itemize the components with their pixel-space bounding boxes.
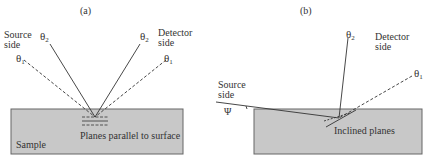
detector-side-label-b: Detector side — [375, 32, 409, 52]
theta2-left-a: θ2 — [40, 31, 49, 45]
inclined-planes-label: Inclined planes — [334, 126, 395, 136]
theta2-b: θ2 — [346, 29, 355, 43]
source-side-label-a: Source side — [4, 30, 32, 50]
panel-a-label: (a) — [80, 6, 91, 16]
theta1-b: θ1 — [414, 68, 423, 82]
source-side-label-b: Source side — [218, 80, 246, 100]
detector-side-label-a: Detector side — [158, 28, 192, 48]
beams-a — [24, 44, 166, 117]
planes-parallel-label: Planes parallel to surface — [80, 131, 180, 141]
theta2-right-a: θ2 — [140, 31, 149, 45]
theta1-right-a: θ1 — [164, 53, 173, 67]
theta1-left-a: θ1 — [16, 53, 25, 67]
psi-angle-label: Ψ — [224, 107, 231, 117]
sample-label: Sample — [16, 140, 46, 150]
panel-b-label: (b) — [300, 6, 312, 16]
